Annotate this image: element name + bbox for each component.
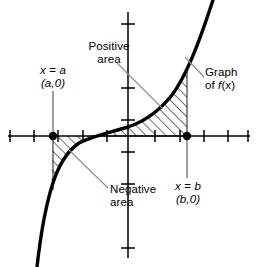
graph-of-f-suffix: (x) (221, 79, 235, 91)
point-a-marker (49, 132, 57, 140)
graph-of-f-prefix: of (205, 79, 218, 91)
negative-area-leader (69, 150, 108, 188)
negative-area-label: Negative area (110, 183, 168, 208)
positive-area-label-line2: area (78, 53, 140, 66)
positive-area-label: Positive area (78, 40, 140, 65)
point-b-eq: = (181, 180, 194, 192)
negative-area-label-line2: area (110, 196, 168, 209)
point-a-eq: = (46, 64, 59, 76)
point-a-label: x = a (a,0) (20, 64, 86, 89)
graph-of-f-label: Graph of f(x) (205, 66, 263, 91)
point-a-val: a (59, 64, 66, 76)
graph-of-f-label-line1: Graph (205, 66, 263, 79)
negative-area-label-line1: Negative (110, 183, 168, 196)
point-a-equation: x = a (20, 64, 86, 77)
graph-of-f-label-line2: of f(x) (205, 79, 263, 92)
point-b-marker (183, 132, 191, 140)
positive-area-label-line1: Positive (78, 40, 140, 53)
positive-area-region (88, 62, 192, 140)
point-b-val: b (194, 180, 201, 192)
positive-area-leader (117, 63, 163, 109)
point-a-coords: (a,0) (20, 77, 86, 90)
figure-container: Positive area Graph of f(x) x = a (a,0) … (0, 0, 266, 267)
